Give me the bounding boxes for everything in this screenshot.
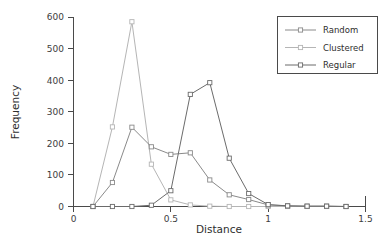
y-tick-label: 200 [47,139,64,149]
data-point-marker [227,204,231,208]
x-tick-label: 1.5 [358,214,372,224]
data-point-marker [305,204,309,208]
series-line [93,127,346,206]
data-point-marker [130,125,134,129]
x-tick-label: 0 [71,214,77,224]
x-axis-title: Distance [196,223,242,235]
data-point-marker [247,204,251,208]
data-point-marker [286,204,290,208]
chart-legend: RandomClusteredRegular [278,17,378,74]
y-tick-label: 100 [47,170,64,180]
data-point-marker [130,204,134,208]
x-axis-ticks: 00.511.5 [71,207,373,224]
data-point-marker [344,204,348,208]
data-point-marker [324,204,328,208]
data-point-marker [169,189,173,193]
data-point-marker [188,92,192,96]
data-point-marker [91,204,95,208]
data-point-marker [266,203,270,207]
x-tick-label: 0.5 [164,214,178,224]
data-point-marker [227,156,231,160]
legend-swatch-marker [298,45,302,49]
data-point-marker [110,180,114,184]
chart-figure: 0100200300400500600 00.511.5 Distance Fr… [0,0,387,240]
data-point-marker [169,198,173,202]
data-point-marker [188,151,192,155]
y-tick-label: 600 [47,12,64,22]
line-chart: 0100200300400500600 00.511.5 Distance Fr… [0,0,387,240]
series-regular [91,81,348,209]
series-random [91,125,348,208]
y-tick-label: 0 [58,202,64,212]
data-point-marker [208,178,212,182]
data-point-marker [247,197,251,201]
legend-label: Regular [323,60,356,70]
data-point-marker [149,162,153,166]
data-point-marker [227,193,231,197]
y-tick-label: 400 [47,76,64,86]
data-point-marker [110,125,114,129]
legend-label: Random [323,25,358,35]
x-tick-label: 1 [265,214,271,224]
data-point-marker [149,145,153,149]
legend-label: Clustered [323,43,364,53]
data-point-marker [130,20,134,24]
data-point-marker [169,152,173,156]
y-axis-title: Frequency [9,85,21,139]
y-tick-label: 300 [47,107,64,117]
legend-swatch-marker [298,28,302,32]
y-axis-ticks: 0100200300400500600 [47,12,74,212]
data-point-marker [149,203,153,207]
y-tick-label: 500 [47,44,64,54]
data-point-marker [110,204,114,208]
data-point-marker [208,204,212,208]
data-point-marker [188,203,192,207]
legend-swatch-marker [298,63,302,67]
data-point-marker [208,81,212,85]
data-point-marker [247,191,251,195]
